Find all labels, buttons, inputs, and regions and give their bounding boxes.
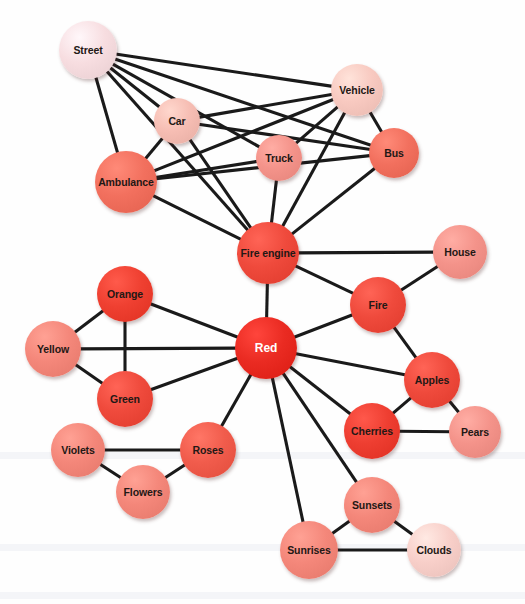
network-edge-red-orange [148, 303, 240, 338]
network-node-label: Pears [459, 427, 491, 438]
network-node-label: Flowers [122, 487, 165, 498]
network-node-label: Bus [382, 148, 406, 159]
network-node-label: Green [108, 394, 142, 405]
network-node-label: Vehicle [337, 85, 377, 96]
network-node-label: Cherries [349, 426, 395, 437]
network-node-label: Fire [367, 300, 390, 311]
network-node-street[interactable]: Street [59, 21, 117, 79]
network-node-sunsets[interactable]: Sunsets [344, 477, 400, 533]
network-node-orange[interactable]: Orange [97, 266, 153, 322]
network-node-label: Orange [105, 289, 145, 300]
network-node-red[interactable]: Red [235, 317, 297, 379]
network-node-vehicle[interactable]: Vehicle [331, 64, 383, 116]
network-node-roses[interactable]: Roses [180, 422, 236, 478]
network-node-label: Yellow [35, 344, 71, 355]
network-node-label: Fire engine [239, 248, 298, 259]
network-node-apples[interactable]: Apples [404, 352, 460, 408]
network-edge-street-ambulance [95, 75, 118, 155]
network-edge-truck-fire_engine [271, 178, 276, 225]
network-node-house[interactable]: House [433, 225, 487, 279]
network-node-car[interactable]: Car [154, 98, 200, 144]
network-node-label: Apples [413, 375, 451, 386]
network-node-violets[interactable]: Violets [51, 423, 105, 477]
network-node-pears[interactable]: Pears [449, 406, 501, 458]
network-node-ambulance[interactable]: Ambulance [95, 151, 157, 213]
network-node-fire[interactable]: Fire [350, 277, 406, 333]
network-edge-fire_engine-fire [293, 265, 355, 294]
network-node-label: Street [71, 45, 104, 56]
network-edge-fire_engine-house [296, 252, 436, 253]
network-node-label: Roses [190, 445, 225, 456]
network-edge-ambulance-fire_engine [151, 195, 243, 241]
network-edge-red-roses [220, 372, 252, 428]
network-node-yellow[interactable]: Yellow [25, 321, 81, 377]
network-node-label: Car [166, 116, 187, 127]
network-edge-fire-apples [393, 325, 418, 359]
network-edge-red-green [149, 358, 240, 391]
network-node-label: House [442, 247, 478, 258]
network-node-label: Violets [59, 445, 97, 456]
network-edge-yellow-green [74, 363, 105, 384]
network-edge-red-apples [293, 353, 407, 375]
network-edge-bus-fire_engine [290, 167, 377, 236]
network-node-green[interactable]: Green [97, 371, 153, 427]
network-edge-red-cherries [288, 365, 352, 415]
network-edge-fire_engine-red [267, 281, 268, 320]
network-edge-house-fire [399, 265, 440, 291]
network-node-fire_engine[interactable]: Fire engine [237, 222, 299, 284]
network-edge-orange-yellow [73, 309, 105, 334]
network-edge-cherries-pears [397, 431, 452, 432]
network-edge-red-yellow [78, 348, 238, 349]
network-node-label: Clouds [415, 545, 454, 556]
network-edge-fire-red [292, 314, 355, 338]
network-node-bus[interactable]: Bus [369, 128, 419, 178]
network-edge-layer [0, 0, 525, 604]
network-node-cherries[interactable]: Cherries [344, 403, 400, 459]
network-edge-roses-flowers [163, 464, 187, 479]
network-node-flowers[interactable]: Flowers [116, 465, 170, 519]
network-edge-car-ambulance [144, 136, 164, 160]
network-node-label: Sunrises [285, 545, 333, 556]
network-node-label: Sunsets [350, 500, 394, 511]
network-node-label: Ambulance [96, 177, 156, 188]
network-edge-sunsets-sunrises [330, 520, 351, 535]
network-node-sunrises[interactable]: Sunrises [280, 521, 338, 579]
network-edge-violets-flowers [98, 463, 123, 479]
network-node-clouds[interactable]: Clouds [407, 523, 461, 577]
network-node-label: Truck [263, 153, 295, 164]
network-node-truck[interactable]: Truck [256, 135, 302, 181]
network-edge-apples-cherries [391, 396, 413, 415]
network-node-label: Red [253, 342, 279, 354]
network-edge-car-fire_engine [188, 137, 252, 229]
